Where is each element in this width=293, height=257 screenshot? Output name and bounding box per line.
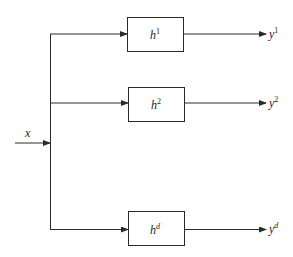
input-label: x — [24, 126, 31, 140]
output-label-d: yd — [268, 221, 279, 236]
block-diagram: x h1 y1 h2 y2 hd yd — [0, 0, 293, 257]
output-label-1: y1 — [268, 26, 278, 41]
output-label-2: y2 — [268, 95, 278, 110]
